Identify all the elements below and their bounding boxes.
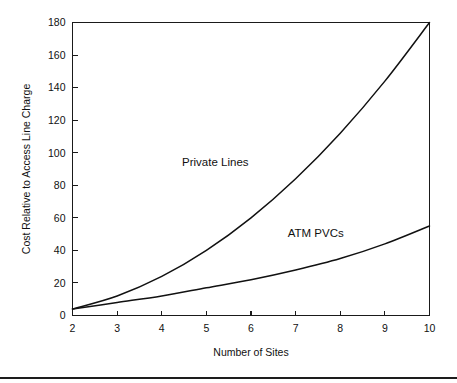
footer-divider [0,377,457,379]
x-tick-label: 7 [293,322,299,334]
x-tick-label: 9 [382,322,388,334]
line-chart-figure: 020406080100120140160180 2345678910 Priv… [0,0,457,370]
x-tick-label: 6 [248,322,254,334]
y-tick-label: 80 [54,179,66,191]
chart-page: 020406080100120140160180 2345678910 Priv… [0,0,457,383]
y-tick-label: 20 [54,277,66,289]
chart-canvas: 020406080100120140160180 2345678910 Priv… [0,0,457,370]
x-tick-label: 3 [114,322,120,334]
x-axis-title: Number of Sites [213,346,288,358]
x-tick-label: 4 [159,322,165,334]
y-tick-label: 140 [48,81,66,93]
y-tick-label: 160 [48,49,66,61]
y-tick-label: 100 [48,147,66,159]
series-label-atm-pvcs: ATM PVCs [288,227,344,239]
y-tick-label: 120 [48,114,66,126]
x-tick-label: 5 [203,322,209,334]
x-tick-label: 10 [424,322,436,334]
y-tick-label: 40 [54,244,66,256]
x-tick-label: 2 [70,322,76,334]
chart-background [0,0,457,370]
series-label-private-lines: Private Lines [182,156,249,168]
y-tick-label: 180 [48,16,66,28]
y-tick-label: 60 [54,212,66,224]
y-tick-label: 0 [60,309,66,321]
x-tick-label: 8 [337,322,343,334]
y-axis-title: Cost Relative to Access Line Charge [20,84,32,255]
